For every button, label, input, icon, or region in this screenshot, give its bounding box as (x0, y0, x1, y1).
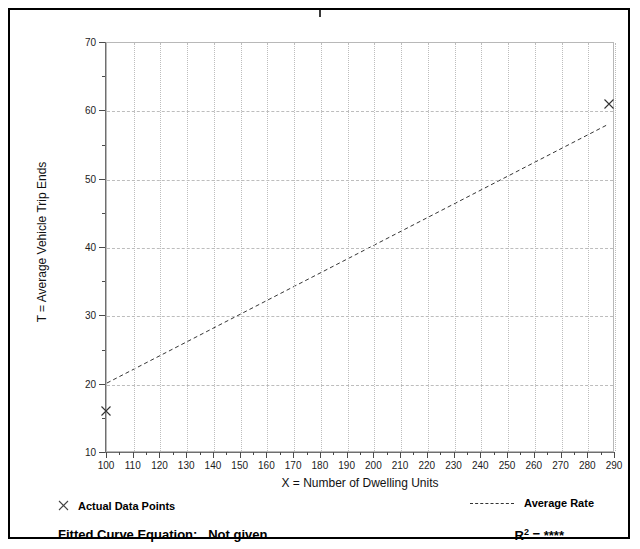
vertical-gridline (241, 43, 242, 451)
x-axis-tick-label: 200 (365, 460, 382, 471)
x-axis-minor-tick (520, 452, 521, 455)
x-axis-major-tick (106, 452, 107, 458)
y-axis-line (105, 42, 106, 453)
vertical-gridline (455, 43, 456, 451)
y-axis-major-tick (99, 110, 105, 111)
x-axis-tick-label: 180 (312, 460, 329, 471)
x-axis-minor-tick (226, 452, 227, 455)
legend-item-data-points: Actual Data Points (58, 497, 175, 515)
x-axis-tick-label: 100 (98, 460, 115, 471)
x-axis-minor-tick (547, 452, 548, 455)
x-axis-major-tick (293, 452, 294, 458)
y-axis-minor-tick (102, 145, 105, 146)
vertical-gridline (374, 43, 375, 451)
vertical-gridline (294, 43, 295, 451)
x-axis-minor-tick (333, 452, 334, 455)
x-axis-minor-tick (360, 452, 361, 455)
vertical-gridline (134, 43, 135, 451)
x-axis-major-tick (159, 452, 160, 458)
x-axis-minor-tick (413, 452, 414, 455)
x-axis-tick-label: 230 (445, 460, 462, 471)
x-axis-major-tick (427, 452, 428, 458)
x-axis-minor-tick (173, 452, 174, 455)
horizontal-gridline (107, 385, 613, 386)
dashed-line-icon (470, 503, 514, 504)
top-frame-nick (319, 10, 321, 17)
x-axis-minor-tick (494, 452, 495, 455)
legend-item-average-rate: Average Rate (470, 497, 594, 509)
vertical-gridline (348, 43, 349, 451)
chart-frame: X = Number of Dwelling Units T = Average… (8, 8, 630, 539)
vertical-gridline (535, 43, 536, 451)
vertical-gridline (428, 43, 429, 451)
x-axis-major-tick (373, 452, 374, 458)
legend-row-equation: Fitted Curve Equation: Not given R2 = **… (10, 525, 628, 547)
vertical-gridline (481, 43, 482, 451)
y-axis-tick-label: 10 (68, 447, 96, 458)
x-axis-major-tick (561, 452, 562, 458)
r2-symbol: R (515, 528, 524, 543)
x-axis-major-tick (266, 452, 267, 458)
y-axis-tick-label: 30 (68, 310, 96, 321)
y-axis-major-tick (99, 452, 105, 453)
y-axis-minor-tick (102, 281, 105, 282)
y-axis-major-tick (99, 247, 105, 248)
vertical-gridline (267, 43, 268, 451)
equation-value: Not given (208, 527, 267, 542)
x-axis-minor-tick (280, 452, 281, 455)
x-axis-major-tick (614, 452, 615, 458)
x-axis-tick-label: 160 (258, 460, 275, 471)
x-axis-major-tick (320, 452, 321, 458)
horizontal-gridline (107, 111, 613, 112)
x-axis-minor-tick (200, 452, 201, 455)
x-axis-tick-label: 170 (285, 460, 302, 471)
x-axis-major-tick (347, 452, 348, 458)
x-axis-tick-label: 250 (499, 460, 516, 471)
legend-label-average-rate: Average Rate (524, 497, 594, 509)
x-axis-tick-label: 290 (606, 460, 623, 471)
x-axis-tick-label: 120 (151, 460, 168, 471)
r2-exponent: 2 (524, 527, 529, 537)
x-axis-tick-label: 280 (579, 460, 596, 471)
equation-label: Fitted Curve Equation: (58, 527, 197, 542)
x-axis-major-tick (133, 452, 134, 458)
vertical-gridline (401, 43, 402, 451)
x-axis-title: X = Number of Dwelling Units (106, 476, 614, 490)
y-axis-tick-label: 20 (68, 378, 96, 389)
x-axis-minor-tick (574, 452, 575, 455)
y-axis-minor-tick (102, 213, 105, 214)
y-axis-tick-label: 40 (68, 242, 96, 253)
x-axis-tick-label: 190 (338, 460, 355, 471)
x-axis-major-tick (400, 452, 401, 458)
r2-equals: = (533, 528, 541, 543)
x-axis-minor-tick (119, 452, 120, 455)
x-axis-tick-label: 260 (525, 460, 542, 471)
fitted-curve-equation: Fitted Curve Equation: Not given (58, 527, 267, 542)
vertical-gridline (508, 43, 509, 451)
data-point-marker (101, 406, 112, 417)
legend-row-markers: Actual Data Points Average Rate (10, 497, 628, 519)
vertical-gridline (187, 43, 188, 451)
average-rate-line (107, 125, 608, 383)
x-axis-minor-tick (440, 452, 441, 455)
y-axis-minor-tick (102, 350, 105, 351)
y-axis-major-tick (99, 42, 105, 43)
x-axis-tick-label: 140 (205, 460, 222, 471)
y-axis-tick-label: 50 (68, 173, 96, 184)
x-axis-major-tick (186, 452, 187, 458)
vertical-gridline (160, 43, 161, 451)
x-axis-tick-label: 240 (472, 460, 489, 471)
x-axis-minor-tick (253, 452, 254, 455)
x-axis-minor-tick (601, 452, 602, 455)
x-axis-major-tick (213, 452, 214, 458)
x-axis-tick-label: 220 (418, 460, 435, 471)
x-axis-major-tick (240, 452, 241, 458)
y-axis-tick-label: 60 (68, 105, 96, 116)
x-axis-major-tick (454, 452, 455, 458)
x-axis-major-tick (507, 452, 508, 458)
average-rate-trend-line (107, 43, 613, 451)
x-axis-tick-label: 150 (231, 460, 248, 471)
vertical-gridline (214, 43, 215, 451)
x-axis-major-tick (534, 452, 535, 458)
vertical-gridline (321, 43, 322, 451)
